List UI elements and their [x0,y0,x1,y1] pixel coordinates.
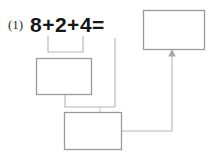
first-step-answer-box[interactable] [37,59,92,95]
connector-diagram [0,0,209,159]
connector-second-step-to-result [122,49,176,131]
brace-under-8-plus-2 [48,36,83,52]
result-answer-box[interactable] [144,11,205,50]
connector-first-step-to-second-step [65,95,115,107]
second-step-answer-box[interactable] [65,113,122,150]
worksheet-problem-page: (1) 8+2+4= [0,0,209,159]
